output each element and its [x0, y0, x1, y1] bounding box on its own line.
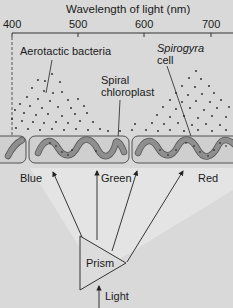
tick-400: 400	[3, 18, 21, 30]
tick-500: 500	[69, 18, 87, 30]
label-green: Green	[101, 172, 132, 184]
label-light: Light	[105, 290, 129, 302]
label-spiral: Spiral	[101, 74, 129, 86]
label-prism: Prism	[86, 257, 114, 269]
tick-700: 700	[202, 18, 220, 30]
label-blue: Blue	[20, 172, 42, 184]
label-aerotactic-bacteria: Aerotactic bacteria	[20, 45, 111, 57]
light-rays	[53, 171, 183, 262]
bacteria-dots-red	[145, 70, 230, 132]
tick-600: 600	[135, 18, 153, 30]
axis-title: Wavelength of light (nm)	[66, 3, 190, 15]
label-red: Red	[198, 172, 218, 184]
label-spirogyra: Spirogyra	[157, 42, 204, 54]
label-chloroplast: chloroplast	[101, 86, 154, 98]
spirogyra-filament	[0, 136, 233, 163]
label-cell: cell	[157, 54, 174, 66]
